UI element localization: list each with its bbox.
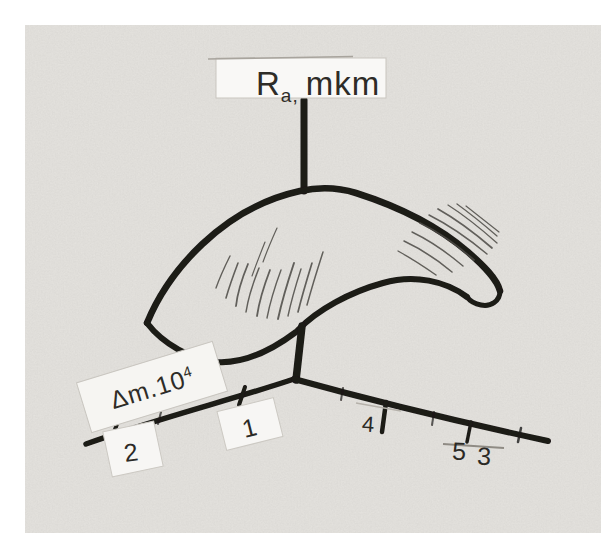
- surface-plot-figure: Ra,mkm Δm.104 2 1 4 5 3: [0, 0, 607, 558]
- right-tick-label-4: 4: [361, 411, 375, 437]
- scanned-figure-page: Ra,mkm Δm.104 2 1 4 5 3: [0, 0, 607, 558]
- right-tick-label-3: 3: [476, 442, 491, 471]
- z-axis-label: Ra,mkm: [256, 65, 380, 106]
- right-tick-label-5: 5: [451, 437, 466, 466]
